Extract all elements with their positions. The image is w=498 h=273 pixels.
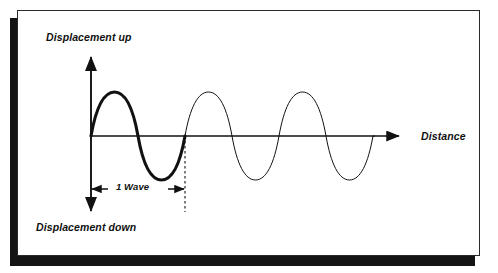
figure-root: Displacement up Displacement down Distan… [0,0,498,273]
y-axis-label-up: Displacement up [46,31,132,43]
wavelength-annotation-label: 1 Wave [116,181,149,192]
y-axis-label-down: Displacement down [36,221,136,233]
x-axis-label-distance: Distance [421,130,466,142]
